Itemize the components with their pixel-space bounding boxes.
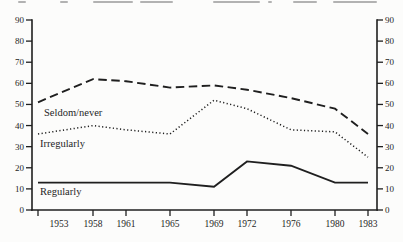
y-tick-label-left: 70 <box>15 57 25 67</box>
y-tick-label-left: 50 <box>15 99 25 109</box>
y-tick-label-right: 0 <box>385 205 390 215</box>
series-label-irregularly: Irregularly <box>40 138 86 149</box>
x-tick-label: 1983 <box>359 219 378 229</box>
x-tick-label: 1980 <box>326 219 345 229</box>
series-label-seldom-never: Seldom/never <box>44 107 103 118</box>
series-line-regularly <box>38 161 368 186</box>
line-chart: 0010102020303040405050606070708080909019… <box>0 0 403 242</box>
x-tick-label: 1958 <box>84 219 103 229</box>
x-tick-label: 1965 <box>161 219 180 229</box>
figure-scan: 0010102020303040405050606070708080909019… <box>0 0 403 242</box>
x-tick-label: 1953 <box>50 219 69 229</box>
y-tick-label-left: 80 <box>15 36 25 46</box>
y-tick-label-right: 90 <box>385 15 395 25</box>
y-tick-label-left: 30 <box>15 142 25 152</box>
y-tick-label-left: 0 <box>20 205 25 215</box>
y-tick-label-right: 40 <box>385 121 395 131</box>
y-tick-label-right: 60 <box>385 78 395 88</box>
y-tick-label-left: 40 <box>15 121 25 131</box>
y-tick-label-left: 20 <box>15 163 25 173</box>
y-tick-label-right: 70 <box>385 57 395 67</box>
y-tick-label-right: 80 <box>385 36 395 46</box>
y-tick-label-right: 50 <box>385 99 395 109</box>
x-tick-label: 1969 <box>205 219 224 229</box>
y-tick-label-right: 30 <box>385 142 395 152</box>
y-tick-label-right: 10 <box>385 184 395 194</box>
x-tick-label: 1972 <box>238 219 257 229</box>
series-label-regularly: Regularly <box>40 186 82 197</box>
x-tick-label: 1961 <box>117 219 136 229</box>
y-tick-label-left: 60 <box>15 78 25 88</box>
x-tick-label: 1976 <box>282 219 301 229</box>
y-tick-label-left: 10 <box>15 184 25 194</box>
y-tick-label-right: 20 <box>385 163 395 173</box>
y-tick-label-left: 90 <box>15 15 25 25</box>
